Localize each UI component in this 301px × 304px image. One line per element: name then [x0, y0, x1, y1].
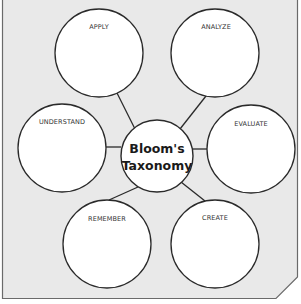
- node-create: CREATE: [171, 200, 259, 288]
- center-title-line2: Taxonomy: [122, 158, 193, 173]
- node-apply-label: APPLY: [89, 23, 109, 31]
- node-remember-label: REMEMBER: [88, 215, 126, 223]
- bloom-taxonomy-diagram: APPLY ANALYZE UNDERSTAND EVALUATE REMEMB…: [0, 0, 301, 304]
- node-remember: REMEMBER: [63, 200, 151, 288]
- node-evaluate: EVALUATE: [207, 105, 295, 193]
- node-apply: APPLY: [55, 9, 143, 97]
- center-node: Bloom's Taxonomy: [121, 120, 193, 192]
- node-understand-label: UNDERSTAND: [39, 118, 85, 126]
- node-analyze: ANALYZE: [171, 9, 259, 97]
- center-title-line1: Bloom's: [129, 141, 184, 156]
- node-create-label: CREATE: [202, 214, 228, 222]
- node-understand: UNDERSTAND: [18, 104, 106, 192]
- node-analyze-label: ANALYZE: [201, 23, 231, 31]
- node-evaluate-label: EVALUATE: [234, 120, 267, 128]
